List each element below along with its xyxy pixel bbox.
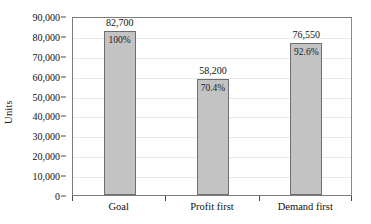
y-tick-label: 0 — [55, 191, 60, 202]
y-tick-mark — [61, 36, 66, 37]
x-tick-label-goal: Goal — [108, 201, 128, 212]
bar[interactable]: 100% — [104, 31, 136, 196]
bar-percent-label: 100% — [105, 35, 135, 46]
y-tick-mark — [61, 96, 66, 97]
bar[interactable]: 92.6% — [290, 43, 322, 195]
bar-value-label: 58,200 — [199, 65, 227, 76]
bar-group-goal: 82,700 100% — [73, 18, 166, 195]
x-tick-label-profit-first: Profit first — [190, 201, 233, 212]
y-tick-mark — [61, 17, 66, 18]
bar-percent-label: 92.6% — [291, 47, 321, 58]
bar-chart: Units 0 10,000 20,000 30,000 40,000 50,0… — [0, 0, 371, 224]
y-tick-mark — [61, 76, 66, 77]
x-axis-tick-labels: Goal Profit first Demand first — [72, 201, 352, 221]
y-axis-tick-labels: 0 10,000 20,000 30,000 40,000 50,000 60,… — [8, 17, 66, 196]
y-tick-mark — [61, 156, 66, 157]
y-tick-label: 30,000 — [33, 131, 61, 142]
y-tick-label: 50,000 — [33, 91, 61, 102]
y-tick-mark — [61, 136, 66, 137]
y-tick-label: 60,000 — [33, 71, 61, 82]
bars-layer: 82,700 100% 58,200 70.4% 76,550 92.6% — [73, 18, 351, 195]
plot-area: 82,700 100% 58,200 70.4% 76,550 92.6% — [72, 17, 352, 196]
bar[interactable]: 70.4% — [197, 79, 229, 195]
y-tick-label: 40,000 — [33, 111, 61, 122]
bar-percent-label: 70.4% — [198, 83, 228, 94]
bar-group-profit-first: 58,200 70.4% — [166, 18, 259, 195]
bar-value-label: 82,700 — [106, 17, 134, 28]
y-tick-label: 20,000 — [33, 151, 61, 162]
y-tick-label: 10,000 — [33, 171, 61, 182]
y-tick-mark — [61, 176, 66, 177]
bar-group-demand-first: 76,550 92.6% — [260, 18, 353, 195]
y-tick-mark — [61, 196, 66, 197]
y-tick-label: 80,000 — [33, 31, 61, 42]
x-tick-label-demand-first: Demand first — [278, 201, 333, 212]
y-tick-label: 90,000 — [33, 12, 61, 23]
y-tick-mark — [61, 56, 66, 57]
bar-value-label: 76,550 — [293, 29, 321, 40]
y-tick-mark — [61, 116, 66, 117]
y-tick-label: 70,000 — [33, 51, 61, 62]
